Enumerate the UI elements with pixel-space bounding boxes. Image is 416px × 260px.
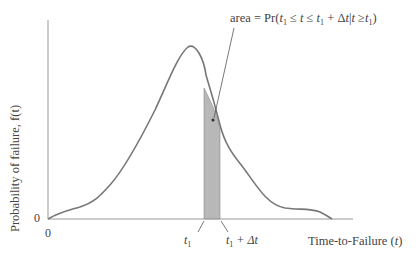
t1dt-pointer [221,221,228,232]
annotation-pointer [214,28,234,118]
y-zero-label: 0 [34,211,40,226]
t1-plus-dt-label: t1 + Δt [226,233,258,249]
x-zero-label: 0 [45,226,51,241]
annotation-dot [211,118,214,121]
density-curve [48,46,332,219]
area-annotation: area = Pr(t1 ≤ t ≤ t1 + Δt|t ≥t1) [230,11,377,27]
shaded-area [204,88,220,219]
t1-label: t1 [184,233,191,249]
t1-pointer [198,221,204,232]
density-plot [0,0,416,260]
y-axis-label: Probability of failure, f(t) [8,105,23,232]
x-axis-label: Time-to-Failure (t) [308,234,402,249]
